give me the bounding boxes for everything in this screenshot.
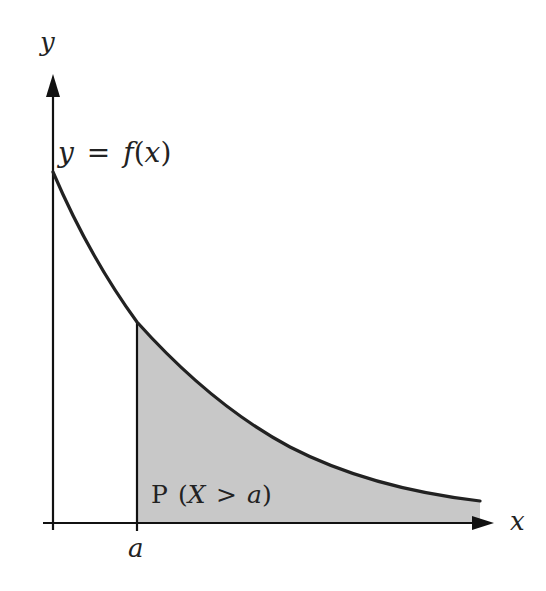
a-tick-label: a — [128, 533, 144, 563]
region-label: P (X > a) — [151, 480, 272, 509]
diagram-canvas: y x y = f(x) a P (X > a) — [0, 0, 546, 591]
x-axis-label: x — [510, 506, 525, 536]
x-axis-arrow-icon — [472, 516, 494, 530]
curve-label: y = f(x) — [56, 136, 171, 169]
y-axis-label: y — [39, 27, 55, 57]
y-axis-arrow-icon — [46, 74, 60, 97]
